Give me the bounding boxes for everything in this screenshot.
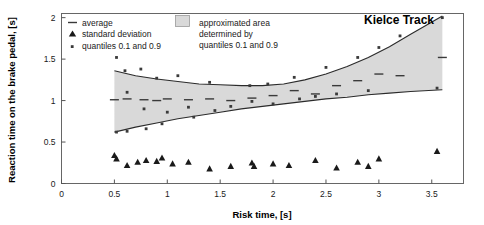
y-tick-label: 2 (51, 13, 56, 23)
area-swatch-icon (176, 16, 190, 27)
chart-title: Kielce Track (364, 13, 434, 27)
x-tick-label: 0 (59, 189, 64, 199)
x-tick-label: 3 (377, 189, 382, 199)
legend-item-standard-deviation: standard deviation (69, 29, 152, 39)
x-tick-label: 1.5 (214, 189, 226, 199)
x-tick-label: 2 (271, 189, 276, 199)
x-axis-title: Risk time, [s] (232, 209, 291, 220)
x-tick-label: 3.5 (426, 189, 438, 199)
y-tick-label: 0 (51, 179, 56, 189)
area-note-line1: approximated area (199, 18, 270, 28)
area-note-line3: quantiles 0.1 and 0.9 (199, 40, 278, 50)
y-axis-title: Reaction time on the brake pedal, [s] (6, 17, 17, 183)
chart-figure: 00.511.522.533.5 00.511.52 Kielce Track … (0, 0, 484, 225)
dot-icon (71, 45, 74, 48)
y-tick-label: 0.5 (44, 137, 56, 147)
legend-item-quantiles: quantiles 0.1 and 0.9 (71, 41, 161, 51)
chart-svg: 00.511.522.533.5 00.511.52 Kielce Track … (0, 0, 484, 225)
area-note-line2: determined by (199, 29, 254, 39)
x-tick-label: 0.5 (108, 189, 120, 199)
y-tick-label: 1 (51, 96, 56, 106)
x-tick-label: 1 (165, 189, 170, 199)
legend-label-quantiles: quantiles 0.1 and 0.9 (82, 41, 161, 51)
x-tick-label: 2.5 (320, 189, 332, 199)
legend-label-standard-deviation: standard deviation (82, 29, 152, 39)
legend-label-average: average (82, 18, 113, 28)
y-tick-label: 1.5 (44, 54, 56, 64)
